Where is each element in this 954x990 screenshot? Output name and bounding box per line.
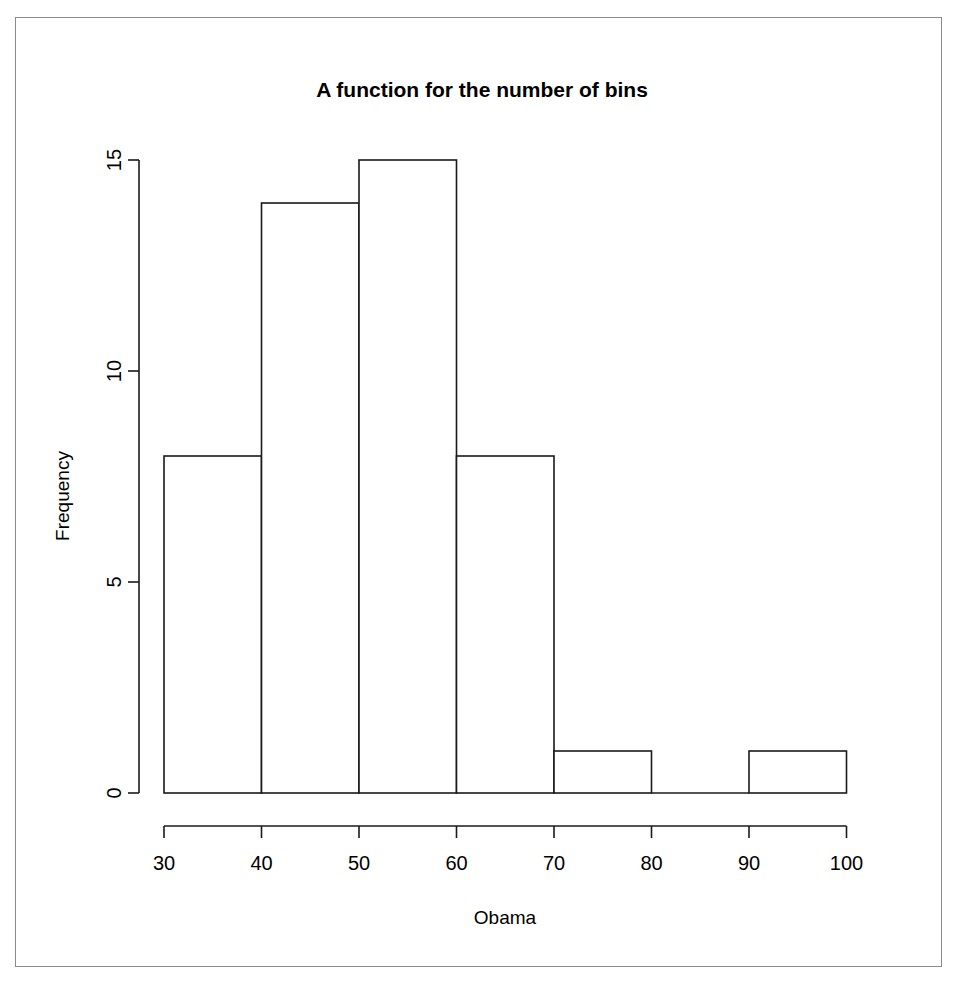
histogram-bar [262, 203, 360, 793]
histogram-bar [554, 751, 652, 793]
histogram-bar [164, 456, 262, 793]
x-tick-label-100: 100 [830, 852, 863, 874]
chart-title: A function for the number of bins [316, 78, 648, 101]
y-tick-label-15: 15 [103, 149, 125, 171]
plot-frame: A function for the number of bins 15 10 … [15, 17, 942, 967]
y-tick-label-0: 0 [103, 787, 125, 798]
bars-group [164, 160, 847, 793]
y-axis-title: Frequency [52, 451, 73, 541]
x-tick-label-40: 40 [250, 852, 272, 874]
x-axis-title: Obama [474, 907, 537, 928]
x-axis: 30 40 50 60 70 80 90 100 Obama [153, 826, 863, 928]
histogram-bar [457, 456, 555, 793]
x-tick-label-70: 70 [543, 852, 565, 874]
x-tick-label-50: 50 [348, 852, 370, 874]
y-axis: 15 10 5 0 Frequency [52, 149, 139, 799]
page-root: A function for the number of bins 15 10 … [0, 0, 954, 990]
x-tick-label-80: 80 [640, 852, 662, 874]
x-tick-label-30: 30 [153, 852, 175, 874]
histogram-bar [749, 751, 847, 793]
histogram-chart: A function for the number of bins 15 10 … [16, 18, 941, 966]
x-tick-label-90: 90 [738, 852, 760, 874]
x-tick-label-60: 60 [445, 852, 467, 874]
histogram-bar [359, 160, 457, 793]
y-tick-label-5: 5 [103, 576, 125, 587]
y-tick-label-10: 10 [103, 360, 125, 382]
